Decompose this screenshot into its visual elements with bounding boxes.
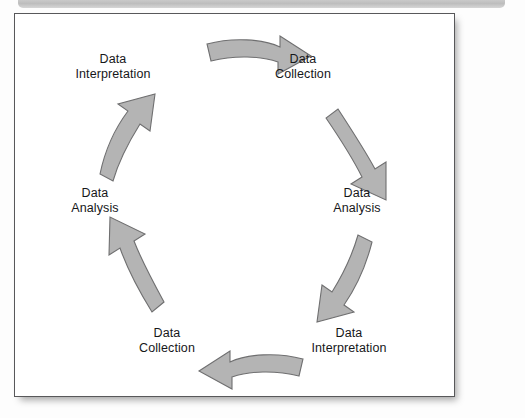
figure-frame: Data Interpretation Data Collection Data… <box>14 13 455 397</box>
arrow-down-left-icon <box>317 235 372 322</box>
page-background: Data Interpretation Data Collection Data… <box>0 0 525 418</box>
page-header-bar <box>18 0 505 8</box>
arrow-bottom-left-icon <box>199 351 303 389</box>
node-label-data-analysis-right: Data Analysis <box>302 186 412 216</box>
node-label-data-analysis-left: Data Analysis <box>40 186 150 216</box>
node-label-data-collection-top: Data Collection <box>243 52 363 82</box>
arrow-up-left-icon <box>109 217 164 312</box>
node-label-data-interpretation-top: Data Interpretation <box>53 52 173 82</box>
node-label-data-interpretation-bottom: Data Interpretation <box>279 326 419 356</box>
node-label-data-collection-bottom: Data Collection <box>102 326 232 356</box>
arrow-up-right-icon <box>100 94 155 181</box>
cycle-diagram: Data Interpretation Data Collection Data… <box>15 14 456 398</box>
